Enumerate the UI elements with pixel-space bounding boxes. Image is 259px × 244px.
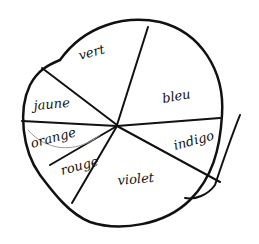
pie-chart-sketch: vert bleu indigo violet rouge orange jau… (0, 0, 259, 244)
